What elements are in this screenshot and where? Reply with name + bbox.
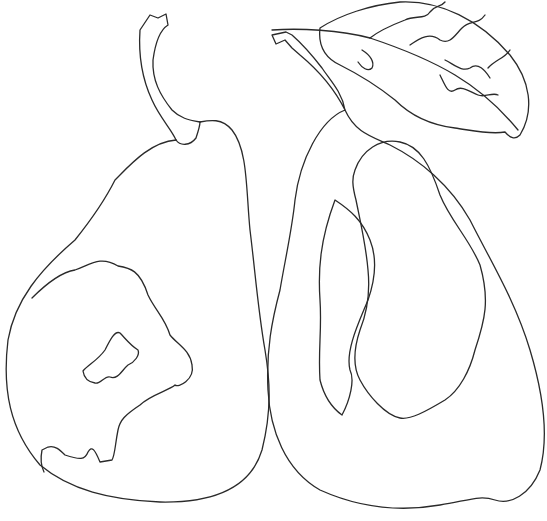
left-pear-outline: [6, 120, 269, 502]
left-russet-patch: [32, 261, 192, 472]
right-pear: [268, 32, 545, 508]
left-stem: [140, 14, 200, 140]
leaf-underside-markings: [358, 50, 498, 96]
left-stem-base: [176, 122, 200, 144]
left-inner-spot: [83, 332, 138, 383]
pear-drawing: [0, 0, 547, 521]
leaf-outline: [320, 2, 529, 138]
leaf: [272, 2, 529, 138]
right-pear-outline: [268, 110, 545, 508]
right-stem: [272, 32, 345, 110]
left-pear: [6, 14, 269, 502]
pears-illustration: [0, 0, 547, 521]
leaf-vein: [272, 29, 518, 130]
